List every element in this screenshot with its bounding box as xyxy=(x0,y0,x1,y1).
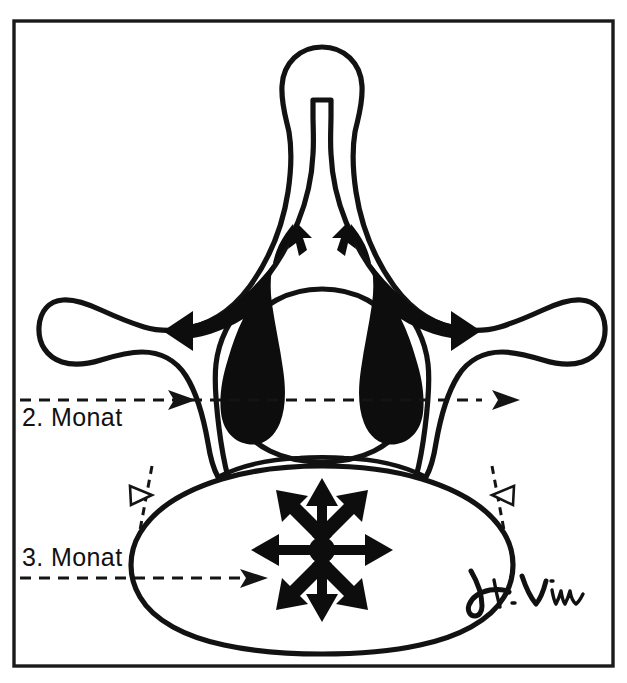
label-3-monat: 3. Monat xyxy=(22,543,122,571)
starburst-center xyxy=(309,537,335,563)
signature-stroke-iau xyxy=(552,590,583,604)
open-triangle-left-icon xyxy=(130,486,152,505)
vertebral-body-group xyxy=(131,466,513,654)
neural-arch-group xyxy=(39,47,605,477)
leader-arrowhead-2-monat-right xyxy=(492,390,520,410)
ossification-center-neural-arch-right xyxy=(349,224,481,445)
ossification-center-neural-arch-left xyxy=(163,224,295,445)
figure-container: 2. Monat 3. Monat xyxy=(0,0,627,683)
vertebra-diagram: 2. Monat 3. Monat xyxy=(0,0,627,683)
signature-stroke-V xyxy=(522,576,546,604)
open-triangle-right-icon xyxy=(492,486,514,505)
label-2-monat: 2. Monat xyxy=(22,403,122,431)
